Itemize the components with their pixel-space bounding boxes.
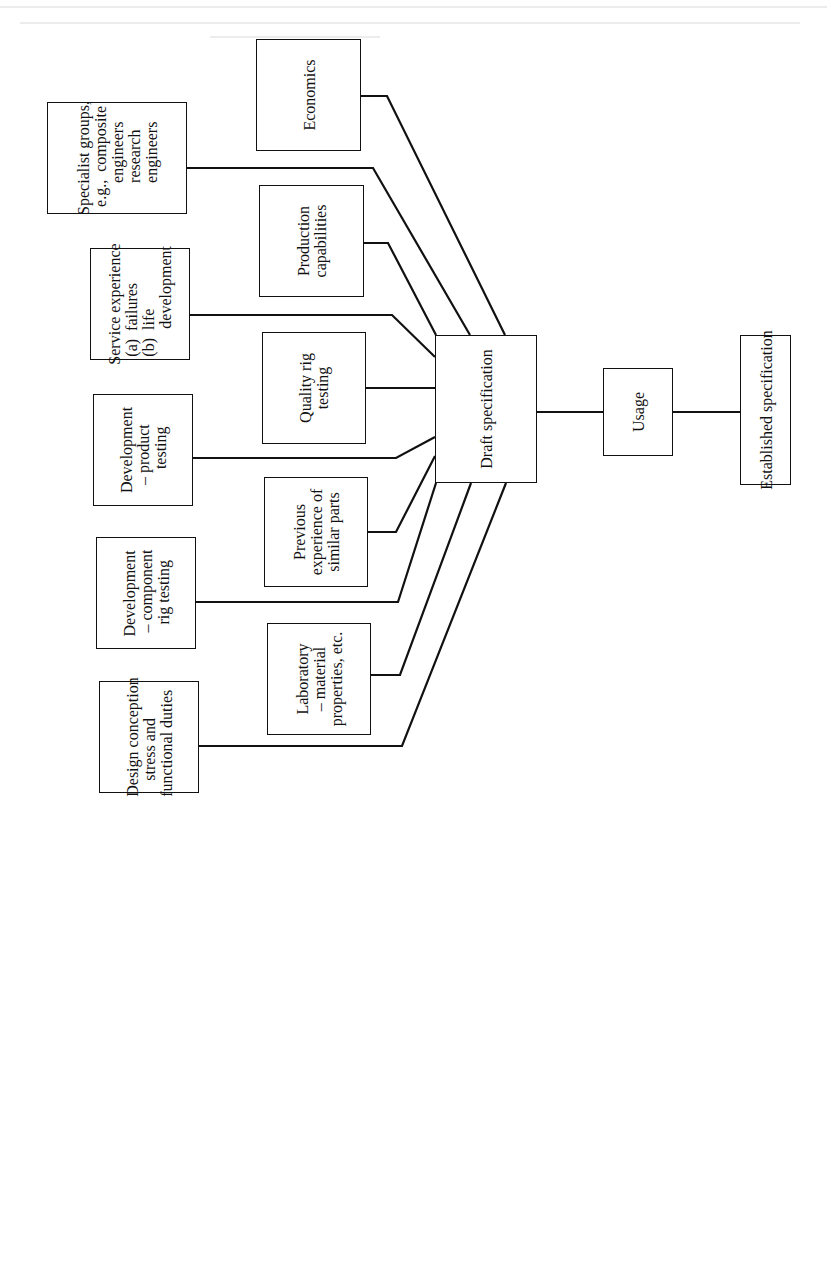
box-laboratory: Laboratory – material properties, etc. <box>267 623 371 735</box>
box-previous-experience-label: Previous experience of similar parts <box>291 489 342 576</box>
box-draft-specification-label: Draft specification <box>478 349 495 469</box>
box-economics: Economics <box>256 39 361 151</box>
box-production-capabilities-label: Production capabilities <box>295 205 329 278</box>
box-previous-experience: Previous experience of similar parts <box>264 477 368 587</box>
box-development-component-rig-testing: Development – component rig testing <box>96 537 196 649</box>
box-quality-rig-testing: Quality rig testing <box>262 332 366 444</box>
box-usage: Usage <box>603 368 673 456</box>
box-usage-label: Usage <box>630 392 647 432</box>
connector-economics <box>361 96 505 335</box>
box-production-capabilities: Production capabilities <box>259 185 364 297</box>
box-specialist-groups: Specialist groups, e.g., composite engin… <box>47 102 187 214</box>
diagram-canvas: Economics Production capabilities Qualit… <box>0 0 827 1284</box>
box-service-experience: Service experience (a) failures (b) life… <box>90 248 190 360</box>
box-economics-label: Economics <box>300 59 317 130</box>
box-quality-rig-testing-label: Quality rig testing <box>297 353 331 423</box>
box-service-experience-label: Service experience (a) failures (b) life… <box>106 243 174 364</box>
box-development-product-testing: Development – product testing <box>93 394 193 506</box>
box-design-conception-label: Design conception stress and functional … <box>124 677 175 797</box>
box-established-specification: Established specification <box>740 335 791 485</box>
box-specialist-groups-label: Specialist groups, e.g., composite engin… <box>75 101 160 215</box>
box-established-specification-label: Established specification <box>757 330 774 490</box>
box-laboratory-label: Laboratory – material properties, etc. <box>294 632 345 727</box>
box-design-conception: Design conception stress and functional … <box>99 681 199 793</box>
box-development-component-rig-testing-label: Development – component rig testing <box>121 549 172 636</box>
box-development-product-testing-label: Development – product testing <box>118 407 169 493</box>
connector-laboratory <box>371 483 471 675</box>
box-draft-specification: Draft specification <box>435 335 537 483</box>
